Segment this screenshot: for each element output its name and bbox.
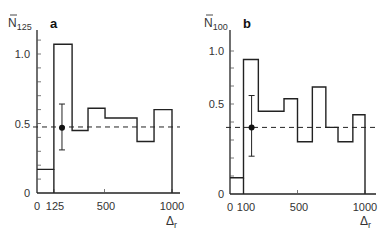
x-tick-label: 0 (34, 200, 40, 212)
panel-letter-a: a (50, 16, 58, 31)
y-tick-label: 1.0 (15, 48, 30, 60)
x-axis-label-a: Δr (166, 214, 177, 230)
panel-letter-b: b (243, 16, 251, 31)
x-tick-label: 125 (46, 200, 64, 212)
y-tick-label: 0.5 (209, 98, 224, 110)
y-tick-label: 0.5 (15, 118, 30, 130)
y-tick-label: 0 (218, 188, 224, 200)
x-tick-label: 100 (237, 201, 255, 213)
axes-a (33, 30, 180, 193)
histogram-steps (37, 44, 172, 193)
figure: N125 a 0 0.5 1.0 0 125 500 1000 Δr N100 … (0, 0, 390, 236)
x-tick-label: 0 (227, 201, 233, 213)
y-tick-label: 1.0 (209, 45, 224, 57)
panel-a: N125 a 0 0.5 1.0 0 125 500 1000 Δr (8, 15, 184, 230)
panel-b: N100 b 0 0.5 1.0 0 100 500 1000 Δr (204, 15, 377, 230)
y-axis-label-b: N100 (204, 16, 228, 32)
mean-point (59, 125, 65, 131)
mean-point (249, 124, 255, 130)
x-tick-label: 1000 (353, 201, 377, 213)
x-tick-label: 1000 (160, 200, 184, 212)
axes-b (226, 30, 376, 194)
x-tick-label: 500 (290, 201, 308, 213)
x-axis-label-b: Δr (360, 214, 371, 230)
x-tick-label: 500 (97, 200, 115, 212)
y-tick-label: 0 (24, 187, 30, 199)
y-axis-label-a: N125 (8, 16, 32, 32)
